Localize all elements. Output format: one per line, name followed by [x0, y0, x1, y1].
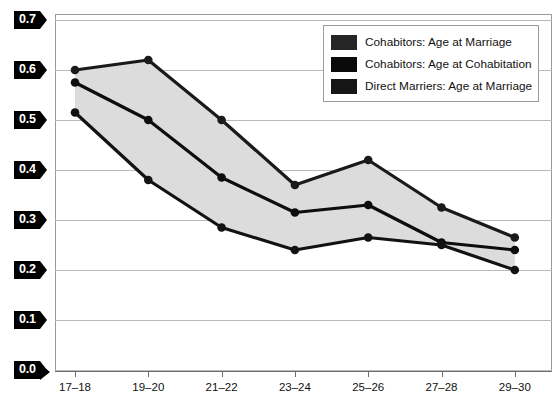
data-point-marker [437, 203, 446, 212]
x-axis-tick [515, 371, 516, 377]
y-axis-tick-label: 0.2 [14, 261, 40, 279]
data-point-marker [217, 173, 226, 182]
y-axis-tick-pointer-icon [40, 11, 47, 29]
data-point-marker [511, 246, 520, 255]
y-axis-tick-label: 0.5 [14, 111, 40, 129]
x-axis-tick-label: 27–28 [426, 381, 458, 393]
data-point-marker [217, 116, 226, 125]
x-axis-tick-label: 19–20 [132, 381, 164, 393]
y-axis-tick: 0.6 [14, 61, 47, 80]
y-axis-tick-pointer-icon [40, 111, 47, 129]
x-axis-tick-label: 25–26 [352, 381, 384, 393]
legend-item-label: Cohabitors: Age at Marriage [365, 35, 512, 49]
x-axis-tick [148, 371, 149, 377]
legend-swatch-icon [331, 35, 357, 50]
y-axis-tick-label: 0.4 [14, 161, 40, 179]
x-axis-origin-arrow [40, 364, 50, 380]
y-axis-tick-label: 0.3 [14, 211, 40, 229]
data-point-marker [291, 208, 300, 217]
data-point-marker [291, 181, 300, 190]
data-point-marker [144, 176, 153, 185]
y-axis-tick: 0.2 [14, 261, 47, 280]
data-point-marker [364, 233, 373, 242]
data-point-marker [71, 78, 80, 87]
x-axis-tick-label: 29–30 [499, 381, 531, 393]
y-axis-tick-pointer-icon [40, 61, 47, 79]
data-point-marker [511, 233, 520, 242]
y-axis-tick-label: 0.7 [14, 11, 40, 29]
x-axis-tick-label: 21–22 [206, 381, 238, 393]
x-axis-tick [368, 371, 369, 377]
y-axis-tick: 0.5 [14, 111, 47, 130]
y-axis-tick: 0.3 [14, 211, 47, 230]
legend-item: Direct Marriers: Age at Marriage [331, 76, 531, 96]
y-axis-tick-pointer-icon [40, 211, 47, 229]
y-axis-tick-pointer-icon [40, 161, 47, 179]
y-axis-tick-pointer-icon [40, 311, 47, 329]
legend-swatch-icon [331, 79, 357, 94]
data-point-marker [437, 241, 446, 250]
legend-item: Cohabitors: Age at Cohabitation [331, 54, 531, 74]
legend-item: Cohabitors: Age at Marriage [331, 32, 531, 52]
x-axis-tick-label: 17–18 [59, 381, 91, 393]
data-point-marker [217, 223, 226, 232]
legend-swatch-icon [331, 57, 357, 72]
data-point-marker [364, 201, 373, 210]
data-point-marker [144, 116, 153, 125]
x-axis-tick [222, 371, 223, 377]
x-axis-tick [295, 371, 296, 377]
legend-item-label: Cohabitors: Age at Cohabitation [365, 57, 532, 71]
chart-legend: Cohabitors: Age at Marriage Cohabitors: … [323, 25, 539, 102]
x-axis-tick [75, 371, 76, 377]
y-axis-tick: 0.4 [14, 161, 47, 180]
data-point-marker [71, 108, 80, 117]
legend-item-label: Direct Marriers: Age at Marriage [365, 79, 532, 93]
chart-container: 0.00.10.20.30.40.50.60.7 17–1819–2021–22… [0, 0, 560, 413]
y-axis-tick-pointer-icon [40, 261, 47, 279]
x-axis-tick [442, 371, 443, 377]
data-point-marker [144, 56, 153, 65]
y-axis-tick-label: 0.6 [14, 61, 40, 79]
y-axis-tick-label: 0.1 [14, 311, 40, 329]
x-axis-tick-label: 23–24 [279, 381, 311, 393]
data-point-marker [291, 246, 300, 255]
y-axis-tick-label: 0.0 [14, 361, 40, 379]
data-point-marker [511, 266, 520, 275]
y-axis-tick: 0.7 [14, 11, 47, 30]
y-axis-tick: 0.1 [14, 311, 47, 330]
data-point-marker [71, 66, 80, 75]
x-axis-line [55, 371, 552, 372]
data-point-marker [364, 156, 373, 165]
